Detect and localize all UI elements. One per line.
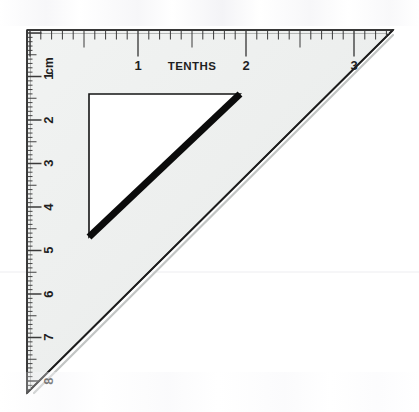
left-scale-number: 7 (41, 333, 56, 340)
left-scale-number: 8 (41, 377, 56, 384)
left-scale-number: 2 (41, 116, 56, 123)
left-scale-number: 6 (41, 290, 56, 297)
cm-unit-label: cm (42, 57, 56, 74)
left-scale-number: 5 (41, 246, 56, 253)
left-scale-number: 3 (41, 159, 56, 166)
set-square-scene: 123 TENTHS 12345678 cm (0, 0, 419, 412)
screenshot-canvas: 123 TENTHS 12345678 cm (0, 0, 419, 412)
top-scale-number: 1 (134, 58, 141, 73)
set-square-drawing: 123 TENTHS 12345678 cm (0, 0, 419, 412)
top-scale-number: 2 (242, 58, 249, 73)
left-scale-number: 4 (41, 203, 56, 211)
top-scale-number: 3 (350, 58, 357, 73)
tenths-unit-label: TENTHS (168, 60, 216, 72)
